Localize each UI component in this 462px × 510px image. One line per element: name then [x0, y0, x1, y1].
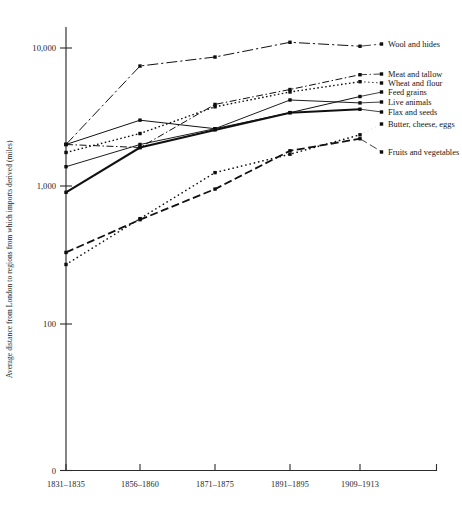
x-axis-ticks: 1831–18351856–18601871–18751891–18951909…: [47, 464, 437, 489]
legend-leader-line: [360, 102, 382, 103]
series-line: [66, 135, 360, 265]
data-point-marker: [213, 105, 216, 108]
series-line: [66, 82, 360, 153]
chart-container: 10,0001,0001000 1831–18351856–18601871–1…: [0, 0, 462, 510]
x-tick-label: 1831–1835: [47, 480, 85, 489]
legend-leader-line: [360, 139, 382, 152]
series-fruits-and-vegetables: [64, 137, 361, 254]
chart-legend: Wool and hidesMeat and tallowWheat and f…: [360, 40, 459, 157]
data-point-marker: [138, 132, 141, 135]
data-point-marker: [138, 146, 141, 149]
data-point-marker: [64, 165, 67, 168]
data-point-marker: [213, 171, 216, 174]
data-point-marker: [138, 118, 141, 121]
series-live-animals: [64, 98, 361, 168]
y-tick-label: 100: [43, 319, 56, 329]
legend-label-butter-cheese-eggs: Butter, cheese, eggs: [388, 120, 455, 129]
legend-label-meat-and-tallow: Meat and tallow: [388, 70, 443, 79]
x-tick-label: 1871–1875: [196, 480, 234, 489]
data-point-marker: [213, 128, 216, 131]
import-distance-line-chart: 10,0001,0001000 1831–18351856–18601871–1…: [0, 0, 462, 510]
legend-leader-line: [360, 74, 382, 75]
series-line: [66, 139, 360, 253]
legend-leader-line: [360, 44, 382, 46]
legend-marker: [380, 122, 383, 125]
series-line: [66, 109, 360, 192]
data-point-marker: [138, 143, 141, 146]
legend-leader-line: [360, 109, 382, 112]
legend-marker: [380, 110, 383, 113]
series-flax-and-seeds: [64, 108, 361, 194]
data-point-marker: [288, 149, 291, 152]
data-point-marker: [64, 263, 67, 266]
y-tick-label: 1,000: [37, 181, 56, 191]
legend-leader-line: [360, 92, 382, 97]
legend-marker: [380, 72, 383, 75]
legend-marker: [380, 90, 383, 93]
y-axis-title: Average distance from London to regions …: [5, 140, 14, 378]
data-point-marker: [138, 64, 141, 67]
series-wheat-and-flour: [64, 80, 361, 154]
y-tick-label: 10,000: [32, 43, 56, 53]
series-line: [66, 100, 360, 167]
legend-label-wheat-and-flour: Wheat and flour: [388, 79, 443, 88]
legend-label-fruits-and-vegetables: Fruits and vegetables: [388, 148, 459, 157]
legend-leader-line: [360, 124, 382, 135]
legend-leader-line: [360, 82, 382, 83]
y-axis-title-text: Average distance from London to regions …: [5, 140, 14, 378]
x-tick-label: 1891–1895: [271, 480, 309, 489]
legend-label-feed-grains: Feed grains: [388, 88, 427, 97]
legend-marker: [380, 150, 383, 153]
data-point-marker: [64, 191, 67, 194]
data-point-marker: [138, 218, 141, 221]
data-point-marker: [213, 187, 216, 190]
data-point-marker: [64, 251, 67, 254]
series-butter-cheese-eggs: [64, 133, 361, 266]
data-series-group: [64, 41, 361, 267]
legend-label-wool-and-hides: Wool and hides: [388, 40, 440, 49]
data-point-marker: [288, 98, 291, 101]
data-point-marker: [64, 143, 67, 146]
x-tick-label: 1909–1913: [341, 480, 379, 489]
series-line: [66, 97, 360, 145]
data-point-marker: [288, 90, 291, 93]
y-tick-label: 0: [52, 466, 56, 476]
data-point-marker: [288, 111, 291, 114]
data-point-marker: [213, 55, 216, 58]
series-feed-grains: [64, 95, 361, 146]
data-point-marker: [288, 152, 291, 155]
legend-label-live-animals: Live animals: [388, 98, 432, 107]
data-point-marker: [288, 41, 291, 44]
legend-marker: [380, 100, 383, 103]
data-point-marker: [64, 151, 67, 154]
legend-label-flax-and-seeds: Flax and seeds: [388, 108, 437, 117]
legend-marker: [380, 81, 383, 84]
legend-marker: [380, 42, 383, 45]
x-tick-label: 1856–1860: [121, 480, 159, 489]
